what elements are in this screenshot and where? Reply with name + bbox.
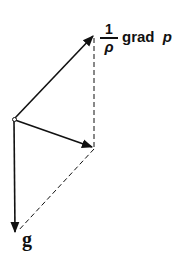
inverse-density-fraction: 1 ρ	[100, 22, 118, 54]
origin-point	[13, 118, 17, 122]
resultant-vector	[15, 120, 92, 147]
vector-diagram: 1 ρ grad p g	[0, 0, 195, 258]
gravity-vector	[14, 121, 15, 232]
fraction-denominator: ρ	[100, 40, 118, 54]
grad-p-label: grad p	[122, 28, 172, 45]
dashed-diagonal	[18, 149, 94, 231]
pressure-gradient-vector	[15, 36, 93, 118]
gravity-label: g	[22, 228, 32, 251]
grad-text: grad	[122, 28, 155, 45]
fraction-numerator: 1	[100, 22, 118, 36]
pressure-symbol: p	[163, 28, 172, 45]
